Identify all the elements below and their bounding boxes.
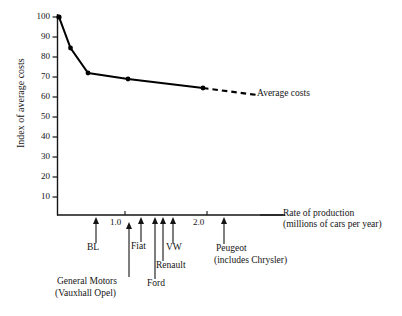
firm-arrow-peugeot: [221, 217, 227, 244]
chart-figure: Index of average costs 100 90 80 70 60 5…: [0, 0, 402, 316]
data-point: [126, 77, 131, 82]
firm-arrow-renault: [160, 217, 166, 261]
data-point: [86, 71, 91, 76]
y-tick-label-40: 40: [28, 132, 50, 141]
y-tick-label-10: 10: [28, 192, 50, 201]
firm-label-peugeot-line1: Peugeot: [216, 244, 247, 254]
firm-label-general-motors-line2: (Vauxhall Opel): [55, 289, 116, 299]
y-tick-label-80: 80: [28, 52, 50, 61]
firm-arrow-fiat: [138, 217, 144, 242]
average-costs-extrapolation: [203, 88, 257, 95]
x-tick-label-1: 1.0: [110, 218, 121, 227]
data-point: [56, 14, 61, 19]
firm-arrow-vw: [170, 217, 176, 243]
y-tick-label-60: 60: [28, 92, 50, 101]
y-tick-label-30: 30: [28, 152, 50, 161]
average-costs-label: Average costs: [257, 89, 310, 99]
y-axis-title: Index of average costs: [16, 58, 27, 148]
firm-label-bl: BL: [87, 243, 99, 253]
y-tick-label-20: 20: [28, 172, 50, 181]
data-point: [68, 46, 73, 51]
firm-label-renault: Renault: [156, 261, 186, 271]
firm-label-ford: Ford: [147, 279, 165, 289]
y-tick-label-50: 50: [28, 112, 50, 121]
x-tick-label-2: 2.0: [193, 218, 204, 227]
firm-label-fiat: Fiat: [131, 242, 146, 252]
y-tick-label-100: 100: [28, 12, 50, 21]
x-axis-caption-line2: (millions of cars per year): [283, 220, 382, 230]
firm-label-general-motors-line1: General Motors: [57, 277, 117, 287]
chart-canvas: [0, 0, 402, 316]
y-tick-label-70: 70: [28, 72, 50, 81]
firm-arrow-bl: [93, 217, 99, 243]
x-axis-caption-line1: Rate of production: [283, 209, 354, 219]
firm-label-vw: VW: [166, 243, 182, 253]
y-axis-ticks: [53, 17, 58, 197]
y-tick-label-90: 90: [28, 32, 50, 41]
average-costs-curve: [59, 17, 203, 88]
firm-label-peugeot-line2: (includes Chrysler): [214, 256, 287, 266]
